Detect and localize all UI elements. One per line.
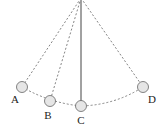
ball-C (76, 101, 87, 112)
ball-B (45, 96, 56, 107)
label-B: B (44, 109, 51, 121)
ball-D (138, 82, 149, 93)
label-A: A (11, 93, 19, 105)
label-D: D (148, 93, 156, 105)
string-A (22, 0, 81, 87)
pendulum-diagram: A B C D (0, 0, 168, 124)
ball-A (17, 82, 28, 93)
label-C: C (77, 114, 84, 124)
string-B (50, 0, 81, 101)
string-D (81, 0, 143, 87)
